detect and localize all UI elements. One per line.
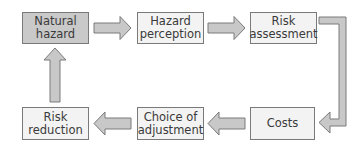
node-costs: Costs [250,107,315,140]
arrow-right-icon [94,17,131,40]
node-risk-reduction: Risk reduction [22,107,89,140]
arrow-up-icon [44,48,66,102]
node-risk-assessment: Risk assessment [250,12,317,44]
arrow-left-icon [208,112,245,135]
node-natural-hazard: Natural hazard [22,12,89,44]
arrow-right-icon [208,17,245,40]
arrow-elbow-down-left-icon [319,17,346,133]
arrow-left-icon [94,112,131,135]
node-hazard-perception: Hazard perception [137,12,204,44]
node-choice-of-adjustment: Choice of adjustment [137,107,204,140]
